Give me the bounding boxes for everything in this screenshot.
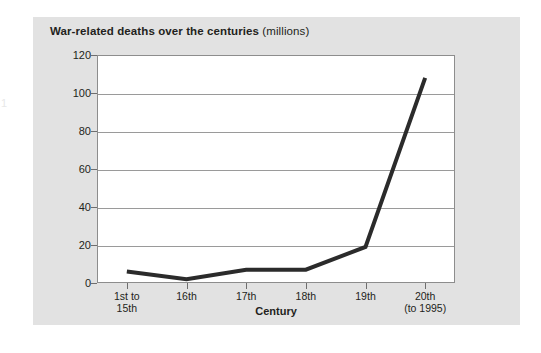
y-axis-tick-label: 120 [57,50,91,61]
x-axis-tick-mark [187,283,188,289]
y-axis-tick-mark [91,207,97,208]
x-axis-tick-mark [306,283,307,289]
series-polyline [127,78,425,279]
x-axis-tick-mark [246,283,247,289]
y-axis-tick-label: 40 [57,202,91,213]
y-axis: 020406080100120 [55,55,91,283]
y-axis-tick-label: 80 [57,126,91,137]
x-axis-tick-mark [366,283,367,289]
y-axis-tick-mark [91,93,97,94]
y-axis-tick-mark [91,283,97,284]
y-axis-tick-label: 60 [57,164,91,175]
y-axis-tick-mark [91,55,97,56]
y-axis-tick-mark [91,169,97,170]
y-axis-tick-label: 20 [57,240,91,251]
chart-title-unit: (millions) [262,25,309,37]
y-axis-tick-mark [91,131,97,132]
page-margin-mark: 1 [1,98,7,109]
chart-title-text: War-related deaths over the centuries [50,25,259,37]
x-axis-tick-mark [425,283,426,289]
chart-title: War-related deaths over the centuries (m… [50,25,309,37]
y-axis-tick-mark [91,245,97,246]
y-axis-tick-label: 100 [57,88,91,99]
x-axis-tick-label: 20th (to 1995) [382,291,468,314]
x-axis-tick-mark [127,283,128,289]
series-line-chart [97,55,455,283]
y-axis-tick-label: 0 [57,278,91,289]
